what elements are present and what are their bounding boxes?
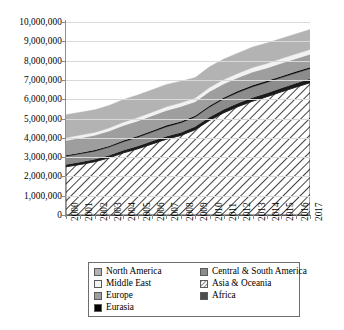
x-axis-tick-label: 2017: [314, 202, 324, 221]
x-axis-tick: [195, 215, 196, 219]
y-axis-tick: [62, 61, 66, 62]
y-axis-labels: 01,000,0002,000,0003,000,0004,000,0005,0…: [0, 0, 62, 250]
x-axis-tick-label: 2000: [70, 202, 80, 221]
y-axis-tick-label: 3,000,000: [24, 152, 62, 162]
dark-swatch: [200, 292, 208, 300]
legend-label: Central & South America: [212, 266, 307, 277]
gridline: [66, 99, 310, 100]
y-axis-tick-label: 1,000,000: [24, 191, 62, 201]
x-axis-tick-label: 2003: [113, 202, 123, 221]
x-axis-tick-label: 2014: [271, 202, 281, 221]
y-axis-tick-label: 5,000,000: [24, 114, 62, 124]
gridline: [66, 157, 310, 158]
x-axis-tick: [267, 215, 268, 219]
x-axis-tick: [95, 215, 96, 219]
y-axis-tick-label: 9,000,000: [24, 36, 62, 46]
gridline: [66, 119, 310, 120]
y-axis-tick: [62, 22, 66, 23]
x-axis-tick: [109, 215, 110, 219]
medium-gray-swatch: [94, 292, 102, 300]
y-axis-tick: [62, 176, 66, 177]
x-axis-tick: [166, 215, 167, 219]
x-axis-tick-label: 2005: [142, 202, 152, 221]
hatched-swatch: [200, 280, 208, 288]
y-axis-tick: [62, 41, 66, 42]
legend-item[interactable]: North America: [94, 266, 198, 277]
x-axis-tick-label: 2002: [99, 202, 109, 221]
x-axis-tick: [238, 215, 239, 219]
x-axis-tick: [181, 215, 182, 219]
y-axis-tick: [62, 80, 66, 81]
legend-item[interactable]: Asia & Oceania: [200, 278, 307, 289]
gridline: [66, 22, 310, 23]
x-axis-tick-label: 2008: [185, 202, 195, 221]
x-axis-tick-label: 2009: [199, 202, 209, 221]
plot-container: 01,000,0002,000,0003,000,0004,000,0005,0…: [0, 0, 344, 250]
x-axis-tick: [123, 215, 124, 219]
x-axis-tick-label: 2001: [84, 202, 94, 221]
legend-label: Asia & Oceania: [212, 278, 271, 289]
y-axis-tick-label: 4,000,000: [24, 133, 62, 143]
chart-figure: 01,000,0002,000,0003,000,0004,000,0005,0…: [0, 0, 344, 330]
x-axis-tick: [310, 215, 311, 219]
x-axis-tick: [224, 215, 225, 219]
x-axis-tick-label: 2004: [127, 202, 137, 221]
gridline: [66, 80, 310, 81]
legend-label: North America: [106, 266, 162, 277]
gridline: [66, 61, 310, 62]
legend-item[interactable]: Africa: [200, 290, 307, 301]
y-axis-tick: [62, 215, 66, 216]
x-axis-tick: [210, 215, 211, 219]
x-axis-tick: [138, 215, 139, 219]
legend-label: Eurasia: [106, 302, 134, 313]
gridline: [66, 138, 310, 139]
y-axis-tick-label: 8,000,000: [24, 56, 62, 66]
x-axis-tick: [296, 215, 297, 219]
gridline: [66, 196, 310, 197]
dark-gray-swatch: [200, 268, 208, 276]
x-axis-tick: [253, 215, 254, 219]
x-axis-tick-label: 2010: [214, 202, 224, 221]
x-axis-tick: [80, 215, 81, 219]
plot-area: [66, 22, 310, 215]
chart-legend: North AmericaCentral & South AmericaMidd…: [88, 262, 300, 317]
x-axis-tick-label: 2012: [242, 202, 252, 221]
y-axis-tick-label: 7,000,000: [24, 75, 62, 85]
x-axis-tick-label: 2015: [285, 202, 295, 221]
x-axis-tick: [152, 215, 153, 219]
x-axis-tick-label: 2016: [300, 202, 310, 221]
y-axis-tick: [62, 99, 66, 100]
black-swatch: [94, 304, 102, 312]
legend-item[interactable]: Central & South America: [200, 266, 307, 277]
x-axis-tick: [281, 215, 282, 219]
y-axis-tick: [62, 157, 66, 158]
x-axis-tick-label: 2011: [228, 203, 238, 221]
legend-item[interactable]: Eurasia: [94, 302, 198, 313]
gridline: [66, 176, 310, 177]
y-axis-tick-label: 10,000,000: [19, 17, 62, 27]
x-axis-tick-label: 2006: [156, 202, 166, 221]
legend-label: Middle East: [106, 278, 151, 289]
y-axis-tick: [62, 119, 66, 120]
y-axis-tick: [62, 138, 66, 139]
legend-label: Africa: [212, 290, 236, 301]
legend-item[interactable]: Europe: [94, 290, 198, 301]
x-axis-tick: [66, 215, 67, 219]
y-axis-tick-label: 6,000,000: [24, 94, 62, 104]
x-axis-tick-label: 2013: [257, 202, 267, 221]
gridline: [66, 41, 310, 42]
x-axis-tick-label: 2007: [170, 202, 180, 221]
legend-label: Europe: [106, 290, 133, 301]
white-swatch: [94, 280, 102, 288]
legend-item[interactable]: Middle East: [94, 278, 198, 289]
y-axis-tick: [62, 196, 66, 197]
light-gray-swatch: [94, 268, 102, 276]
y-axis-tick-label: 2,000,000: [24, 171, 62, 181]
